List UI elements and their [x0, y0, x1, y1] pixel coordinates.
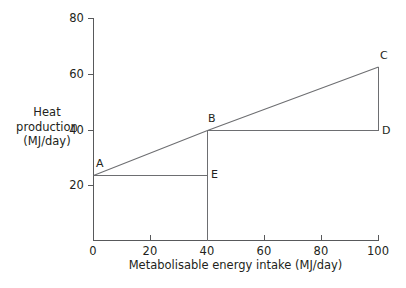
- y-axis-title-line-3: (MJ/day): [8, 134, 86, 149]
- point-label-c: C: [380, 49, 388, 62]
- point-label-e: E: [211, 168, 218, 181]
- x-axis-title: Metabolisable energy intake (MJ/day): [93, 258, 378, 272]
- y-axis-title: Heat production (MJ/day): [8, 105, 86, 149]
- y-tick-label-60: 60: [58, 67, 84, 81]
- x-tick-label-40: 40: [193, 244, 221, 258]
- y-axis-title-line-2: production: [8, 120, 86, 135]
- y-tick-label-20: 20: [58, 178, 84, 192]
- chart-figure: 80 60 40 20 0 20 40 60 80 100 A B C D E …: [0, 0, 406, 288]
- point-label-a: A: [96, 157, 104, 170]
- point-label-b: B: [208, 112, 216, 125]
- y-axis-title-line-1: Heat: [8, 105, 86, 120]
- series-line-heat-production: [94, 67, 379, 176]
- x-tick-label-100: 100: [364, 244, 392, 258]
- point-label-d: D: [382, 124, 390, 137]
- x-tick-label-80: 80: [307, 244, 335, 258]
- x-tick-label-0: 0: [79, 244, 107, 258]
- x-tick-label-20: 20: [136, 244, 164, 258]
- y-tick-label-80: 80: [58, 11, 84, 25]
- x-tick-label-60: 60: [250, 244, 278, 258]
